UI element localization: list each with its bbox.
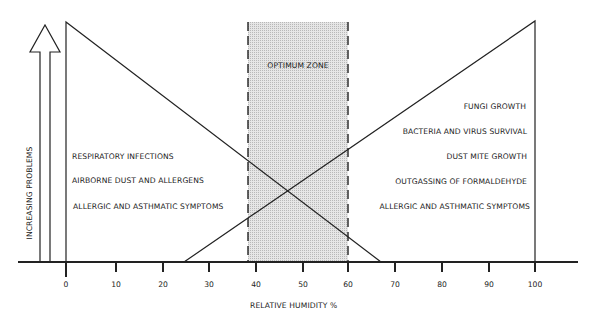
increasing-arrow-icon (30, 25, 60, 262)
x-axis-label: RELATIVE HUMIDITY % (250, 301, 337, 310)
label-formaldehyde: OUTGASSING OF FORMALDEHYDE (395, 177, 527, 186)
label-respiratory-infections: RESPIRATORY INFECTIONS (72, 152, 174, 161)
tick-label: 90 (484, 280, 494, 289)
label-airborne-dust: AIRBORNE DUST AND ALLERGENS (72, 176, 204, 185)
tick-label: 60 (343, 280, 353, 289)
label-fungi-growth: FUNGI GROWTH (464, 102, 526, 111)
humidity-chart: OPTIMUM ZONE INCREASING PROBLEMS 0 10 20… (0, 0, 598, 326)
tick-label: 50 (298, 280, 308, 289)
y-axis-label: INCREASING PROBLEMS (25, 146, 34, 239)
optimum-zone-label: OPTIMUM ZONE (267, 61, 328, 70)
tick-label: 100 (528, 280, 543, 289)
tick-label: 40 (251, 280, 261, 289)
humid-air-series (184, 21, 535, 262)
label-bacteria-virus: BACTERIA AND VIRUS SURVIVAL (403, 127, 528, 136)
humid-air-labels: FUNGI GROWTH BACTERIA AND VIRUS SURVIVAL… (380, 102, 531, 211)
label-allergic-symptoms-right: ALLERGIC AND ASTHMATIC SYMPTOMS (380, 202, 531, 211)
tick-label: 80 (437, 280, 447, 289)
x-ticks (66, 262, 535, 277)
tick-label: 70 (390, 280, 400, 289)
dry-air-labels: RESPIRATORY INFECTIONS AIRBORNE DUST AND… (72, 152, 224, 211)
tick-label: 0 (64, 280, 69, 289)
tick-label: 30 (204, 280, 214, 289)
x-tick-labels: 0 10 20 30 40 50 60 70 80 90 100 (64, 280, 543, 289)
tick-label: 20 (158, 280, 168, 289)
tick-label: 10 (111, 280, 121, 289)
label-allergic-symptoms-left: ALLERGIC AND ASTHMATIC SYMPTOMS (73, 202, 224, 211)
label-dust-mite: DUST MITE GROWTH (446, 152, 527, 161)
